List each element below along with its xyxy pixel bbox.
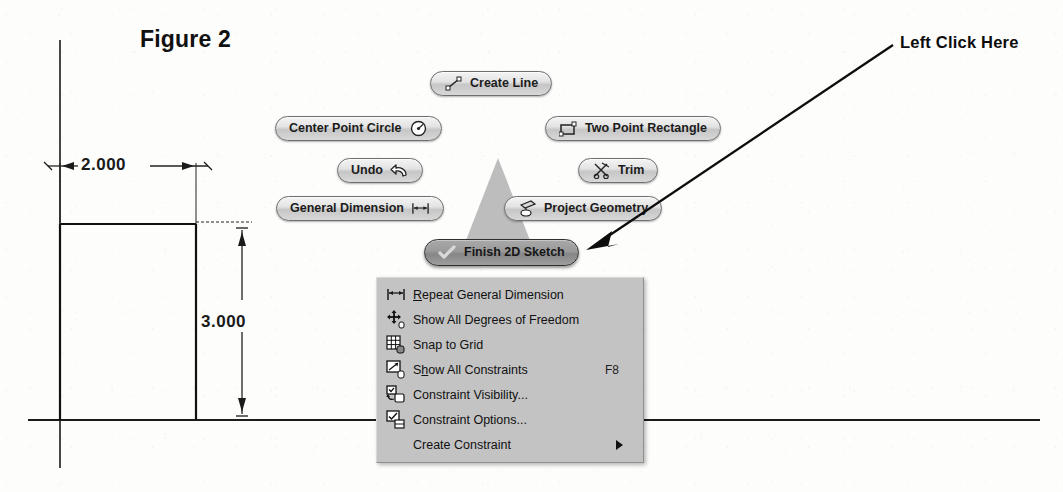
dimension-icon	[411, 200, 430, 217]
scissors-icon	[592, 162, 611, 179]
context-menu-item-show-all-constraints[interactable]: Show All Constraints F8	[377, 357, 643, 382]
snap-to-grid-icon	[385, 335, 406, 354]
context-menu-label: Show All Constraints	[413, 363, 591, 377]
project-geometry-icon	[518, 200, 537, 217]
circle-icon	[409, 120, 428, 137]
figure-screenshot: Figure 2 2.000 3.000	[0, 0, 1063, 492]
context-menu-item-show-all-degrees-of-freedom[interactable]: Show All Degrees of Freedom	[377, 307, 643, 332]
marking-menu-item-general-dimension[interactable]: General Dimension	[276, 196, 444, 221]
dimension-icon	[385, 285, 406, 304]
context-menu-label: Create Constraint	[413, 438, 616, 452]
context-menu-label: Snap to Grid	[413, 338, 637, 352]
marking-menu-label: Undo	[351, 164, 383, 177]
marking-menu-item-two-point-rectangle[interactable]: Two Point Rectangle	[545, 116, 721, 141]
marking-menu-item-project-geometry[interactable]: Project Geometry	[504, 196, 662, 221]
context-menu-shortcut: F8	[605, 363, 619, 377]
marking-menu-label: Project Geometry	[544, 202, 648, 215]
context-menu-label: Constraint Options...	[413, 413, 637, 427]
marking-menu-label: Trim	[618, 164, 644, 177]
marking-menu-item-finish-2d-sketch[interactable]: Finish 2D Sketch	[424, 239, 579, 266]
context-menu-label: Show All Degrees of Freedom	[413, 313, 637, 327]
marking-menu-item-center-point-circle[interactable]: Center Point Circle	[275, 116, 442, 141]
marking-menu-label: Finish 2D Sketch	[464, 246, 565, 259]
marking-menu-item-trim[interactable]: Trim	[578, 158, 658, 183]
marking-menu-item-undo[interactable]: Undo	[337, 158, 423, 183]
marking-menu-label: Two Point Rectangle	[585, 122, 707, 135]
context-menu-item-constraint-options[interactable]: Constraint Options...	[377, 407, 643, 432]
constraint-options-icon	[385, 410, 406, 429]
context-menu-label: Repeat General Dimension	[413, 288, 637, 302]
rectangle-icon	[559, 120, 578, 137]
marking-menu-label: General Dimension	[290, 202, 404, 215]
dimension-value-vertical: 3.000	[198, 312, 249, 332]
checkmark-icon	[438, 244, 457, 261]
undo-arrow-icon	[390, 162, 409, 179]
context-menu-label: Constraint Visibility...	[413, 388, 637, 402]
context-menu-item-snap-to-grid[interactable]: Snap to Grid	[377, 332, 643, 357]
line-icon	[444, 75, 463, 92]
context-menu: Repeat General Dimension Show All Degree…	[376, 277, 644, 463]
context-menu-item-constraint-visibility[interactable]: Constraint Visibility...	[377, 382, 643, 407]
show-constraints-icon	[385, 360, 406, 379]
marking-menu-label: Create Line	[470, 77, 538, 90]
submenu-arrow-icon	[616, 440, 623, 450]
constraint-visibility-icon	[385, 385, 406, 404]
marking-menu-item-create-line[interactable]: Create Line	[430, 71, 552, 96]
marking-menu-label: Center Point Circle	[289, 122, 402, 135]
annotation-label: Left Click Here	[900, 33, 1019, 52]
page-title: Figure 2	[140, 26, 231, 53]
context-menu-item-create-constraint[interactable]: Create Constraint	[377, 432, 643, 457]
dimension-value-horizontal: 2.000	[78, 155, 129, 175]
degrees-of-freedom-icon	[385, 310, 406, 329]
context-menu-item-repeat-general-dimension[interactable]: Repeat General Dimension	[377, 282, 643, 307]
